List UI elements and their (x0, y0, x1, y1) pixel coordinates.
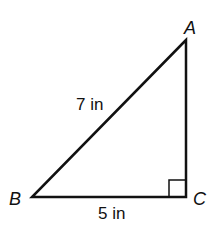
vertex-label-b: B (9, 189, 21, 209)
right-angle-marker (169, 180, 186, 197)
vertex-label-a: A (183, 18, 196, 38)
vertex-label-c: C (193, 189, 207, 209)
triangle-diagram: A B C 7 in 5 in (0, 0, 222, 232)
triangle-abc (32, 40, 186, 197)
side-ab-length: 7 in (76, 95, 103, 114)
side-bc-length: 5 in (98, 204, 125, 223)
